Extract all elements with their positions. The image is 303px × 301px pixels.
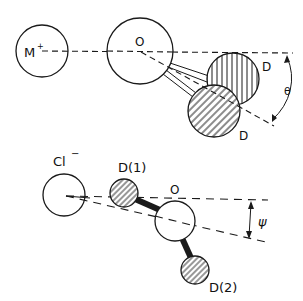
anion-atom [43,174,85,216]
oxygen-label: O [135,35,144,49]
anion-label: Cl [53,154,66,169]
top-diagram: M + O D D θ [16,18,293,143]
bond-line [182,238,191,258]
cation-charge-label: + [37,42,44,51]
hydration-geometry-figure: M + O D D θ Cl − [0,0,303,301]
deuterium-label-b: D [239,129,248,143]
theta-label: θ [284,85,291,98]
psi-label: ψ [258,214,267,229]
deuterium-label-a: D [262,60,271,74]
bond-line [166,70,196,93]
cation-label: M [24,45,35,60]
bottom-diagram: Cl − D(1) O D(2) ψ [43,148,270,295]
anion-charge-label: − [71,148,79,159]
deuterium-1-label: D(1) [118,160,146,175]
bond-line [135,199,160,210]
bond-line [163,74,193,97]
arrowhead-icon [284,55,290,63]
arrowhead-icon [248,201,254,209]
oxygen-label: O [170,183,179,197]
reference-axis-line [66,196,268,200]
deuterium-2-label: D(2) [209,280,237,295]
